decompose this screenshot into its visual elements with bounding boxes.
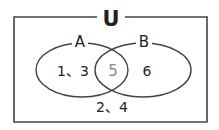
set-b-label: B <box>139 33 149 51</box>
outside-elements: 2、4 <box>96 99 128 115</box>
set-a-label: A <box>75 33 86 51</box>
set-b-only-elements: 6 <box>143 63 152 79</box>
universe-label: U <box>102 7 119 31</box>
venn-diagram: U A B 1、3 5 6 2、4 <box>0 0 219 130</box>
set-a-only-elements: 1、3 <box>57 63 89 79</box>
intersection-elements: 5 <box>108 62 118 80</box>
